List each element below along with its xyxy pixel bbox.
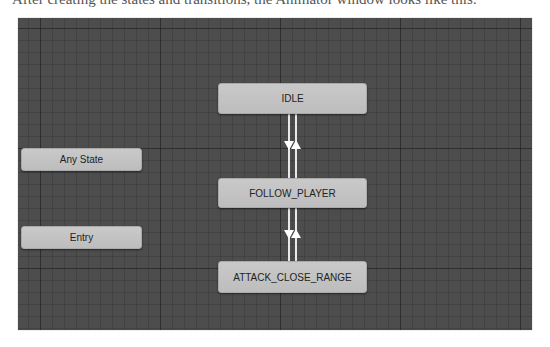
state-any-state[interactable]: Any State xyxy=(21,148,142,171)
state-any-state-label: Any State xyxy=(60,154,103,165)
state-entry-label: Entry xyxy=(70,232,93,243)
state-attack-close-range[interactable]: ATTACK_CLOSE_RANGE xyxy=(218,261,367,293)
state-idle-label: IDLE xyxy=(281,93,303,104)
state-follow-player[interactable]: FOLLOW_PLAYER xyxy=(218,178,367,208)
state-follow-player-label: FOLLOW_PLAYER xyxy=(249,188,336,199)
arrow-up-icon xyxy=(291,229,301,238)
state-attack-close-range-label: ATTACK_CLOSE_RANGE xyxy=(233,272,352,283)
animator-graph-canvas[interactable]: IDLE FOLLOW_PLAYER ATTACK_CLOSE_RANGE An… xyxy=(18,18,532,330)
state-idle[interactable]: IDLE xyxy=(218,83,367,114)
state-entry[interactable]: Entry xyxy=(21,226,142,249)
caption-text: After creating the states and transition… xyxy=(12,0,477,8)
arrow-up-icon xyxy=(291,140,301,149)
